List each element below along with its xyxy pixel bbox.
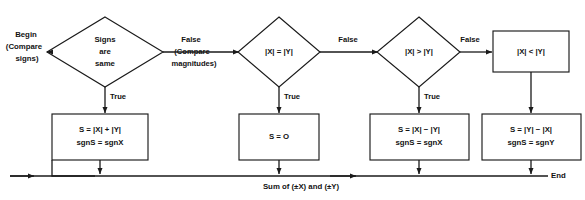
box-sum-y-minus-x-line2: sgnS = sgnY [507,138,555,147]
box-sum-zero-label: S = O [269,132,289,141]
edge-label-decision3-false: False [460,35,479,44]
edge-label-decision1-true: True [110,92,126,101]
flowchart-svg: Signs are same Begin (Compare signs) Tru… [0,0,585,200]
edge-label-decision2-false: False [338,35,357,44]
edge-box1-to-bus-left [52,160,95,176]
edge-label-decision2-true: True [284,92,300,101]
box-sum-y-minus-x-line1: S = |Y| − |X| [510,125,552,134]
box-sum-x-minus-y-line1: S = |X| − |Y| [398,125,440,134]
begin-label-line1: Begin [15,30,37,39]
flowchart-canvas: Signs are same Begin (Compare signs) Tru… [0,0,585,200]
end-label: End [551,171,566,180]
box-sum-y-minus-x [482,114,581,160]
box-sum-add-line2: sgnS = sgnX [76,138,124,147]
begin-label-line2: (Compare [6,42,43,51]
result-label: Sum of (±X) and (±Y) [263,182,340,191]
begin-label-line3: signs) [16,54,39,63]
edge-label-decision1-false-line1: False [181,35,200,44]
box-sum-x-minus-y [370,114,469,160]
decision-abs-x-eq-abs-y-label: |X| = |Y| [265,47,293,56]
box-sum-add [52,114,148,160]
edge-label-decision1-false-line3: magnitudes) [171,59,217,68]
decision-signs-are-same-line3: same [95,59,116,68]
decision-abs-x-gt-abs-y-label: |X| > |Y| [405,47,433,56]
box-sum-x-minus-y-line2: sgnS = sgnX [395,138,443,147]
decision-signs-are-same-line2: are [99,47,111,56]
decision-signs-are-same-line1: Signs [94,35,116,44]
box-abs-x-lt-abs-y-label: |X| < |Y| [517,47,545,56]
box-sum-add-line1: S = |X| + |Y| [79,125,121,134]
edge-label-decision3-true: True [424,92,440,101]
